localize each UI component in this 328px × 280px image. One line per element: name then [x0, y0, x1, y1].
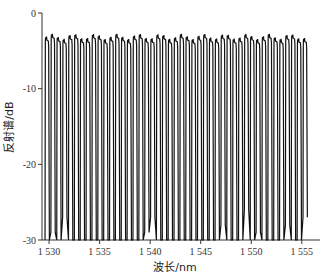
reflection-spectrum-chart: 0-10-20-30 1 5301 5351 5401 5451 5501 55… [0, 0, 328, 280]
x-tick-label: 1 535 [88, 246, 111, 257]
x-ticks: 1 5301 5351 5401 5451 5501 555 [38, 240, 313, 257]
y-tick-label: -10 [23, 83, 36, 94]
x-axis-title: 波长/nm [153, 261, 196, 274]
x-tick-label: 1 530 [38, 246, 61, 257]
y-tick-label: 0 [31, 8, 36, 19]
spectrum-line [45, 34, 307, 240]
y-ticks: 0-10-20-30 [23, 8, 42, 246]
y-tick-label: -30 [23, 235, 36, 246]
x-tick-label: 1 550 [240, 246, 263, 257]
x-tick-label: 1 555 [291, 246, 314, 257]
y-axis-title: 反射谱/dB [2, 101, 16, 152]
x-tick-label: 1 545 [189, 246, 212, 257]
y-tick-label: -20 [23, 159, 36, 170]
x-tick-label: 1 540 [139, 246, 162, 257]
